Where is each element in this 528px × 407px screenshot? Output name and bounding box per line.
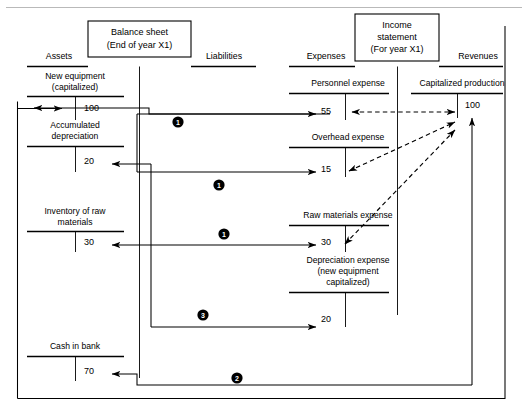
step-marker-2: 2: [231, 372, 242, 383]
asset-0-label-line1: New equipment: [45, 71, 105, 81]
expense-2-label-line1: Raw materials expense: [303, 210, 393, 220]
step-marker-1c: 1: [218, 228, 229, 239]
income-statement-expenses-header: Expenses: [307, 51, 346, 61]
balance-sheet-assets-header: Assets: [46, 51, 73, 61]
step-marker-3: 3: [197, 309, 208, 320]
balance-sheet-title-line1: Balance sheet: [111, 27, 169, 37]
expense-3-label-line3: capitalized): [326, 277, 370, 287]
step-marker-2-label: 2: [235, 375, 239, 382]
income-statement-title-line1: Income: [382, 20, 412, 30]
figure-canvas: Balance sheet (End of year X1) Assets Li…: [0, 0, 528, 407]
asset-1-label-line1: Accumulated: [50, 120, 100, 130]
step-marker-1a: 1: [172, 116, 183, 127]
balance-sheet-liabilities-header: Liabilities: [206, 51, 243, 61]
expense-1-label-line1: Overhead expense: [312, 132, 385, 142]
flow-personnel-to-new-equipment: [34, 108, 330, 114]
expense-3-label-line2: (new equipment: [317, 266, 379, 276]
asset-1-amount: 20: [84, 156, 94, 166]
expense-3-amount: 20: [321, 314, 331, 324]
flow-bottom-return-to-cash: [112, 374, 472, 385]
asset-3-label-line1: Cash in bank: [50, 341, 101, 351]
asset-3-amount: 70: [84, 366, 94, 376]
step-marker-1c-label: 1: [222, 231, 226, 238]
asset-1-label-line2: depreciation: [52, 131, 99, 141]
income-statement-revenues-header: Revenues: [458, 51, 498, 61]
balance-sheet-title-line2: (End of year X1): [107, 40, 173, 50]
dashed-link-overhead-capitalized: [349, 122, 455, 171]
revenue-0-label-line1: Capitalized production: [419, 78, 504, 88]
income-statement-title-line3: (For year X1): [370, 44, 423, 54]
step-marker-1b: 1: [213, 179, 224, 190]
asset-2-label-line2: materials: [58, 217, 93, 227]
expense-3-label-line1: Depreciation expense: [306, 255, 389, 265]
asset-2-amount: 30: [84, 237, 94, 247]
step-marker-1b-label: 1: [217, 182, 221, 189]
revenue-0-amount: 100: [465, 100, 480, 110]
expense-1-amount: 15: [321, 164, 331, 174]
step-marker-3-label: 3: [201, 312, 205, 319]
accounting-flow-diagram: Balance sheet (End of year X1) Assets Li…: [0, 0, 528, 407]
expense-0-label-line1: Personnel expense: [311, 78, 385, 88]
income-statement-title-line2: statement: [377, 32, 417, 42]
asset-2-label-line1: Inventory of raw: [44, 206, 106, 216]
asset-0-label-line2: (capitalized): [52, 82, 98, 92]
step-marker-1a-label: 1: [176, 119, 180, 126]
expense-2-amount: 30: [321, 237, 331, 247]
